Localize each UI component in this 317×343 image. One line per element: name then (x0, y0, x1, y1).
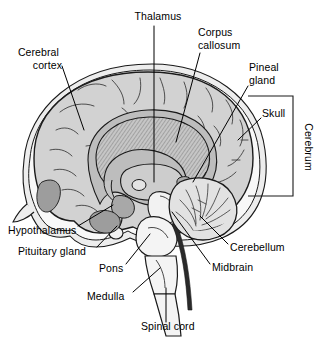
cerebellum (169, 178, 237, 240)
diagram-canvas: Thalamus Corpus callosum Cerebral cortex… (0, 0, 317, 343)
label-corpus-callosum-line2: callosum (198, 39, 240, 51)
label-cerebral-cortex: Cerebral cortex (18, 46, 63, 71)
label-skull: Skull (262, 107, 285, 119)
medulla (145, 256, 177, 294)
label-pineal-gland: Pineal gland (249, 61, 282, 86)
label-pineal-gland-line2: gland (249, 74, 275, 86)
label-hypothalamus: Hypothalamus (8, 224, 76, 236)
label-cerebral-cortex-line1: Cerebral (18, 46, 59, 58)
label-thalamus: Thalamus (135, 10, 182, 22)
label-midbrain: Midbrain (212, 261, 253, 273)
label-corpus-callosum: Corpus callosum (198, 26, 240, 51)
label-pons: Pons (99, 262, 123, 274)
brain-anatomy-diagram: Thalamus Corpus callosum Cerebral cortex… (0, 0, 317, 343)
pons (136, 217, 177, 257)
label-medulla: Medulla (87, 290, 125, 302)
label-corpus-callosum-line1: Corpus (198, 26, 232, 38)
label-pineal-gland-line1: Pineal (249, 61, 279, 73)
label-cerebral-cortex-line2: cortex (33, 59, 63, 71)
label-cerebellum: Cerebellum (230, 241, 285, 253)
label-spinal-cord: Spinal cord (141, 320, 195, 332)
label-cerebrum: Cerebrum (303, 123, 315, 171)
label-pituitary-gland: Pituitary gland (18, 245, 86, 257)
